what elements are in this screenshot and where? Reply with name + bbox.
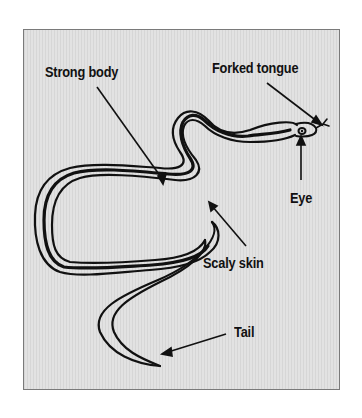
leader-tail — [168, 334, 226, 352]
label-strong-body: Strong body — [45, 64, 118, 80]
leader-forked-tongue — [267, 83, 318, 122]
label-forked-tongue: Forked tongue — [212, 60, 298, 76]
snake-stripe — [44, 115, 290, 268]
label-scaly-skin: Scaly skin — [203, 255, 264, 271]
snake-lower-outer — [99, 222, 215, 366]
label-tail: Tail — [234, 324, 254, 340]
label-eye: Eye — [290, 190, 312, 206]
snake-illustration — [0, 0, 362, 418]
